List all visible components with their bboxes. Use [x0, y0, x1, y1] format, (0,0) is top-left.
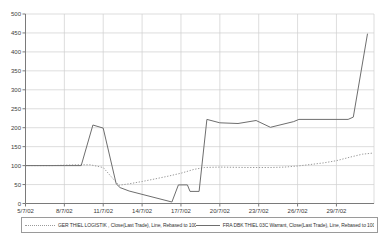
chart-window: 0501001502002503003504004505005/7/028/7/… [0, 0, 383, 238]
solid-line-sample-icon [196, 225, 220, 226]
svg-text:150: 150 [11, 144, 22, 150]
svg-text:50: 50 [14, 182, 21, 188]
legend-item-ger-thiel: GER THIEL LOGISTIK , Close(Last Trade), … [25, 223, 196, 228]
svg-text:11/7/02: 11/7/02 [93, 208, 113, 214]
chart-legend: GER THIEL LOGISTIK , Close(Last Trade), … [21, 217, 378, 233]
svg-text:250: 250 [11, 106, 22, 112]
svg-text:500: 500 [11, 11, 22, 17]
svg-text:26/7/02: 26/7/02 [288, 208, 309, 214]
svg-text:350: 350 [11, 68, 22, 74]
svg-text:450: 450 [11, 30, 22, 36]
svg-text:5/7/02: 5/7/02 [17, 208, 34, 214]
svg-text:17/7/02: 17/7/02 [171, 208, 192, 214]
svg-text:200: 200 [11, 125, 22, 131]
svg-text:0: 0 [18, 201, 22, 207]
svg-text:400: 400 [11, 49, 22, 55]
svg-text:14/7/02: 14/7/02 [132, 208, 153, 214]
legend-item-fra-dbk: FRA DBK THIEL 03C Warrant, Close(Last Tr… [196, 223, 374, 228]
chart-svg: 0501001502002503003504004505005/7/028/7/… [0, 0, 383, 217]
svg-text:23/7/02: 23/7/02 [249, 208, 270, 214]
svg-text:100: 100 [11, 163, 22, 169]
chart-plot-area: 0501001502002503003504004505005/7/028/7/… [0, 0, 383, 217]
dotted-line-sample-icon [25, 225, 55, 226]
svg-text:29/7/02: 29/7/02 [326, 208, 347, 214]
svg-text:20/7/02: 20/7/02 [210, 208, 231, 214]
legend-label-fra-dbk: FRA DBK THIEL 03C Warrant, Close(Last Tr… [223, 223, 374, 228]
svg-text:8/7/02: 8/7/02 [56, 208, 73, 214]
svg-text:300: 300 [11, 87, 22, 93]
legend-label-ger-thiel: GER THIEL LOGISTIK , Close(Last Trade), … [58, 223, 196, 228]
